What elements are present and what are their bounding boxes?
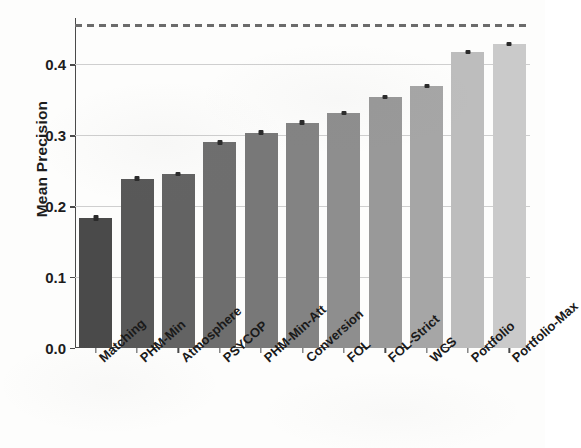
error-bar-fol (341, 111, 346, 115)
error-bar-matching (93, 215, 98, 221)
error-bar-fol-strict (383, 95, 388, 99)
bar-matching[interactable] (79, 218, 112, 348)
bar-portfolio-max[interactable] (493, 44, 526, 348)
y-tick-mark-0.3 (70, 135, 75, 136)
y-tick-mark-0.2 (70, 206, 75, 207)
error-bar-atmosphere (176, 172, 181, 176)
y-tick-label-0.2: 0.2 (45, 198, 66, 215)
error-bar-wcs (424, 84, 429, 88)
error-bar-conversion (300, 120, 305, 124)
y-tick-mark-0.4 (70, 64, 75, 65)
error-bar-psycop (217, 140, 222, 144)
error-bar-phm-min (135, 176, 140, 180)
bar-portfolio[interactable] (451, 52, 484, 348)
y-tick-label-0.4: 0.4 (45, 56, 66, 73)
y-axis-line (75, 18, 76, 348)
y-tick-mark-0.0 (70, 348, 75, 349)
bar-wcs[interactable] (410, 86, 443, 348)
y-tick-mark-0.1 (70, 277, 75, 278)
plot-area: 0.00.10.20.30.4 MatchingPHM-MinAtmospher… (75, 18, 530, 348)
y-axis-label: Mean Precision (33, 69, 51, 249)
bar-phm-min-att[interactable] (245, 133, 278, 349)
reference-line (75, 24, 530, 26)
y-tick-label-0.3: 0.3 (45, 127, 66, 144)
y-tick-label-0.1: 0.1 (45, 269, 66, 286)
y-tick-label-0.0: 0.0 (45, 340, 66, 357)
error-bar-portfolio (465, 50, 470, 54)
bar-fol-strict[interactable] (369, 97, 402, 348)
error-bar-phm-min-att (259, 130, 264, 134)
error-bar-portfolio-max (507, 42, 512, 46)
